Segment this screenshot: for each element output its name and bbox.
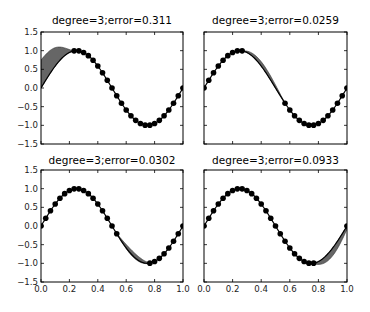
data-point [335, 100, 341, 106]
data-point [311, 122, 317, 128]
data-point [220, 57, 226, 63]
data-point [225, 53, 231, 59]
x-tick-label: 1.0 [176, 284, 190, 294]
data-point [104, 77, 110, 83]
data-point [282, 100, 288, 106]
data-point [235, 186, 241, 192]
data-point [57, 195, 63, 201]
data-point [330, 107, 336, 113]
data-point [175, 93, 181, 99]
data-point [249, 191, 255, 197]
data-point [239, 186, 245, 192]
x-tick-label: 0.8 [148, 284, 162, 294]
data-point [48, 208, 54, 214]
y-tick-label: −0.5 [17, 240, 38, 250]
data-point [114, 93, 120, 99]
x-tick-label: 0.0 [197, 284, 211, 294]
data-point [100, 70, 106, 76]
data-point [282, 238, 288, 244]
subplot-top-right: degree=3;error=0.0259 [201, 14, 350, 144]
y-tick-label: 1.5 [24, 165, 38, 175]
data-point [123, 107, 129, 113]
data-point [175, 231, 181, 237]
data-point [258, 201, 264, 207]
data-point [114, 231, 120, 237]
data-point [225, 191, 231, 197]
y-tick-label: 0.0 [24, 221, 38, 231]
data-point [239, 48, 245, 54]
y-tick-label: 1.0 [24, 46, 38, 56]
plot-area [38, 186, 186, 266]
plot-area [201, 48, 350, 128]
data-point [166, 245, 172, 251]
data-point [166, 107, 172, 113]
data-point [320, 118, 326, 124]
data-point [211, 70, 217, 76]
data-point [100, 208, 106, 214]
data-point [268, 215, 274, 221]
data-point [244, 188, 250, 194]
y-tick-label: 1.0 [24, 184, 38, 194]
figure-4-panels: degree=3;error=0.311 −1.5−1.0−0.50.00.51… [0, 0, 370, 312]
data-point [62, 191, 68, 197]
data-point [86, 191, 92, 197]
data-point [119, 100, 125, 106]
data-point [81, 50, 87, 56]
y-tick-label: −1.5 [17, 277, 38, 287]
y-tick-label: 0.5 [24, 202, 38, 212]
x-tick-label: 0.2 [226, 284, 240, 294]
data-point [81, 188, 87, 194]
subplot-top-left: degree=3;error=0.311 −1.5−1.0−0.50.00.51… [17, 14, 186, 149]
data-point [152, 259, 158, 265]
data-point [161, 113, 167, 119]
subplot-title: degree=3;error=0.311 [52, 14, 172, 26]
subplot-bottom-left: degree=3;error=0.0302 0.00.20.40.60.81.0… [17, 154, 190, 294]
x-tick-label: 1.0 [340, 284, 354, 294]
data-point [230, 188, 236, 194]
data-point [220, 195, 226, 201]
y-tick-label: −0.5 [17, 102, 38, 112]
data-point [152, 121, 158, 127]
x-tick-label: 0.6 [283, 284, 297, 294]
data-point [95, 201, 101, 207]
y-tick-label: 0.0 [24, 83, 38, 93]
x-tick-label: 0.2 [63, 284, 77, 294]
subplot-title: degree=3;error=0.0259 [212, 14, 339, 26]
data-point [95, 63, 101, 69]
data-point [128, 113, 134, 119]
subplot-title: degree=3;error=0.0933 [212, 154, 339, 166]
data-point [90, 195, 96, 201]
y-tick-label: −1.5 [17, 139, 38, 149]
data-point [171, 100, 177, 106]
data-point [325, 113, 331, 119]
data-point [297, 256, 303, 262]
fit-band [116, 233, 150, 264]
data-point [43, 215, 49, 221]
data-point [301, 121, 307, 127]
fit-band [314, 226, 347, 264]
data-point [133, 118, 139, 124]
data-point [216, 201, 222, 207]
data-point [263, 208, 269, 214]
x-tick-label: 0.8 [312, 284, 326, 294]
y-tick-label: −1.0 [17, 120, 38, 130]
subplot-bottom-right: degree=3;error=0.0933 0.00.20.40.60.81.0 [197, 154, 354, 294]
data-point [206, 77, 212, 83]
data-point [301, 259, 307, 265]
data-point [206, 215, 212, 221]
x-tick-label: 0.6 [119, 284, 133, 294]
y-tick-label: 1.5 [24, 27, 38, 37]
data-point [104, 215, 110, 221]
data-point [216, 63, 222, 69]
x-tick-label: 0.4 [254, 284, 268, 294]
data-point [235, 48, 241, 54]
data-point [161, 251, 167, 257]
data-point [311, 260, 317, 266]
data-point [297, 118, 303, 124]
y-tick-label: 0.5 [24, 64, 38, 74]
data-point [109, 85, 115, 91]
data-point [90, 57, 96, 63]
data-point [273, 223, 279, 229]
plot-area [201, 186, 350, 266]
data-point [157, 256, 163, 262]
